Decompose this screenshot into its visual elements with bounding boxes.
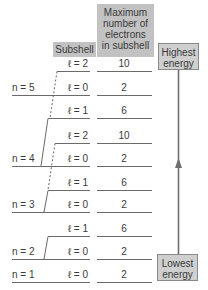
max-electrons-value: 2 [96, 82, 152, 93]
subshell-label: ℓ = 0 [62, 246, 88, 257]
subshell-label: ℓ = 0 [62, 269, 88, 280]
max-electrons-value: 2 [96, 199, 152, 210]
energy-arrow-head [175, 158, 182, 168]
max-electrons-value: 10 [96, 58, 152, 69]
max-electrons-value: 6 [96, 177, 152, 188]
bracket-line [41, 119, 48, 167]
shell-label: n = 4 [12, 153, 35, 164]
max-electrons-value: 6 [96, 223, 152, 234]
subshell-label: ℓ = 1 [62, 105, 88, 116]
max-electrons-value: 2 [96, 153, 152, 164]
subshell-label: ℓ = 0 [62, 153, 88, 164]
max-electrons-value: 10 [96, 130, 152, 141]
shell-label: n = 3 [12, 199, 35, 210]
max-electrons-value: 6 [96, 105, 152, 116]
subshell-label: ℓ = 2 [62, 58, 88, 69]
subshell-label: ℓ = 1 [62, 177, 88, 188]
subshell-label: ℓ = 0 [62, 199, 88, 210]
subshell-label: ℓ = 1 [62, 223, 88, 234]
bracket-line [44, 191, 48, 213]
bracket-line [50, 72, 57, 119]
shell-label: n = 5 [12, 82, 35, 93]
max-electrons-value: 2 [96, 246, 152, 257]
max-electrons-value: 2 [96, 269, 152, 280]
bracket-line [44, 237, 48, 260]
shell-label: n = 1 [12, 269, 35, 280]
subshell-label: ℓ = 2 [62, 130, 88, 141]
shell-label: n = 2 [12, 246, 35, 257]
subshell-label: ℓ = 0 [62, 82, 88, 93]
